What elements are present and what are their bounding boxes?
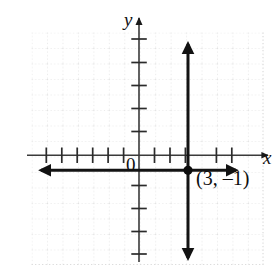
graph-figure: y x 0 (3, –1) [0,0,278,276]
origin-label: 0 [126,155,136,174]
point-coordinate-label: (3, –1) [196,168,249,188]
x-axis-label: x [263,148,271,167]
coordinate-plane-svg [0,0,278,276]
point-marker-3-neg1 [183,166,192,175]
grid-layer [32,33,264,266]
y-axis-label: y [124,10,132,29]
